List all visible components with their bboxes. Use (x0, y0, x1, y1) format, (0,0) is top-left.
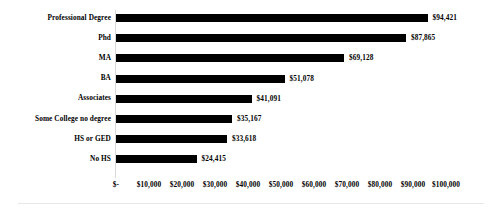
bar (116, 115, 232, 123)
category-label: BA (0, 74, 111, 82)
category-label: HS or GED (0, 135, 111, 143)
bar-row: $69,128 (116, 54, 446, 62)
category-label: Some College no degree (0, 115, 111, 123)
category-axis: Professional DegreePhdMABAAssociatesSome… (0, 0, 111, 180)
bar-value-label: $24,415 (202, 154, 226, 163)
x-axis-tick-label: $50,000 (269, 180, 293, 190)
bar-row: $33,618 (116, 135, 446, 143)
x-axis-tick-label: $100,000 (432, 180, 460, 190)
bar (116, 14, 428, 22)
bar-value-label: $94,421 (433, 13, 457, 22)
bar (116, 135, 227, 143)
category-label: No HS (0, 155, 111, 163)
bar-row: $87,865 (116, 34, 446, 42)
x-axis-tick-label: $30,000 (203, 180, 227, 190)
category-label: Associates (0, 94, 111, 102)
bar (116, 75, 285, 83)
bar-value-label: $51,078 (290, 74, 314, 83)
category-label: Phd (0, 34, 111, 42)
x-axis-tick-label: $40,000 (236, 180, 260, 190)
x-axis-tick-label: $20,000 (170, 180, 194, 190)
bar (116, 34, 406, 42)
category-label: MA (0, 54, 111, 62)
bar-value-label: $35,167 (237, 114, 261, 123)
bar-row: $41,091 (116, 95, 446, 103)
x-axis-tick-label: $60,000 (302, 180, 326, 190)
bar (116, 155, 197, 163)
x-axis-tick-label: $80,000 (368, 180, 392, 190)
bar-value-label: $33,618 (232, 134, 256, 143)
x-axis-tick-label: $- (113, 180, 119, 190)
bar-value-label: $87,865 (411, 33, 435, 42)
plot-area: $94,421$87,865$69,128$51,078$41,091$35,1… (116, 0, 446, 180)
x-axis-tick-label: $10,000 (137, 180, 161, 190)
bar-value-label: $69,128 (349, 53, 373, 62)
bar-row: $94,421 (116, 14, 446, 22)
bar (116, 54, 344, 62)
bar-value-label: $41,091 (257, 94, 281, 103)
bar (116, 95, 252, 103)
x-axis-tick-label: $70,000 (335, 180, 359, 190)
bar-row: $24,415 (116, 155, 446, 163)
bar-row: $35,167 (116, 115, 446, 123)
bottom-divider (18, 203, 484, 204)
bar-chart: Professional DegreePhdMABAAssociatesSome… (0, 0, 502, 210)
x-axis-tick-label: $90,000 (401, 180, 425, 190)
bar-row: $51,078 (116, 75, 446, 83)
category-label: Professional Degree (0, 14, 111, 22)
value-axis-ticks: $-$10,000$20,000$30,000$40,000$50,000$60… (116, 180, 446, 194)
